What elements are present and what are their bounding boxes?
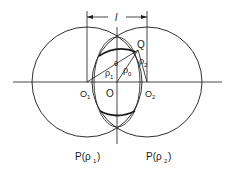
o2-label: O 2 bbox=[145, 89, 156, 100]
two-circle-diagram: l Q θ ρ 1 ρ 0 ρ 2 O 1 O O 2 P(ρ 1 ) P(ρ … bbox=[0, 0, 228, 171]
circle1-caption: P(ρ 1 ) bbox=[75, 151, 100, 164]
rho0-label: ρ 0 bbox=[123, 65, 132, 77]
circle2-caption: P(ρ 2 ) bbox=[146, 151, 171, 164]
bottom-thick-arc bbox=[100, 111, 135, 116]
svg-text:O: O bbox=[80, 89, 87, 99]
arrowhead-right-icon bbox=[141, 15, 147, 19]
svg-text:): ) bbox=[97, 151, 100, 162]
svg-text:): ) bbox=[168, 151, 171, 162]
svg-text:O: O bbox=[145, 89, 152, 99]
svg-text:2: 2 bbox=[152, 94, 156, 100]
svg-text:1: 1 bbox=[110, 74, 114, 80]
svg-text:0: 0 bbox=[128, 71, 132, 77]
svg-text:1: 1 bbox=[87, 94, 91, 100]
o1-label: O 1 bbox=[80, 89, 91, 100]
point-q-label: Q bbox=[137, 39, 145, 50]
theta-label: θ bbox=[114, 60, 118, 67]
svg-text:P(ρ: P(ρ bbox=[146, 151, 162, 162]
rho1-label: ρ 1 bbox=[105, 68, 114, 80]
o-label: O bbox=[106, 88, 114, 99]
dimension-label-l: l bbox=[115, 12, 118, 23]
arrowhead-left-icon bbox=[87, 15, 93, 19]
svg-text:P(ρ: P(ρ bbox=[75, 151, 91, 162]
